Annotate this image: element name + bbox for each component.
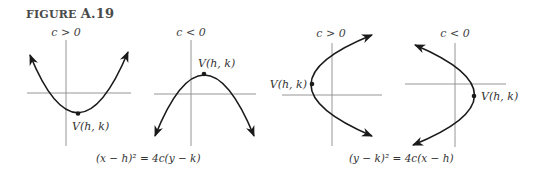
parabola-curve	[413, 45, 475, 145]
panel-opens-up: c > 0 V(h, k)	[27, 26, 131, 146]
parabola-curve	[155, 75, 254, 136]
vertex-point	[76, 111, 81, 116]
vertex-label: V(h, k)	[270, 78, 307, 91]
panel-opens-down: c < 0 V(h, k)	[154, 26, 256, 146]
condition-label: c < 0	[440, 27, 469, 40]
vertex-label: V(h, k)	[481, 90, 518, 103]
condition-label: c > 0	[316, 27, 345, 40]
vertex-point	[202, 72, 207, 77]
vertex-label: V(h, k)	[198, 57, 235, 70]
condition-label: c < 0	[176, 26, 205, 39]
parabola-diagram: c > 0 V(h, k) c < 0 V(h, k) c > 0 V(h, k…	[0, 0, 535, 171]
panel-opens-right: c > 0 V(h, k)	[270, 27, 382, 146]
panel-opens-left: c < 0 V(h, k)	[405, 27, 518, 147]
parabola-curve	[311, 35, 372, 136]
vertex-label: V(h, k)	[72, 120, 109, 133]
condition-label: c > 0	[51, 26, 80, 39]
vertex-point	[310, 82, 315, 87]
equation-vertical-parabola: (x − h)² = 4c(y − k)	[96, 152, 201, 164]
vertex-point	[472, 94, 477, 99]
parabola-curve	[30, 52, 128, 113]
equation-horizontal-parabola: (y − k)² = 4c(x − h)	[349, 152, 454, 164]
